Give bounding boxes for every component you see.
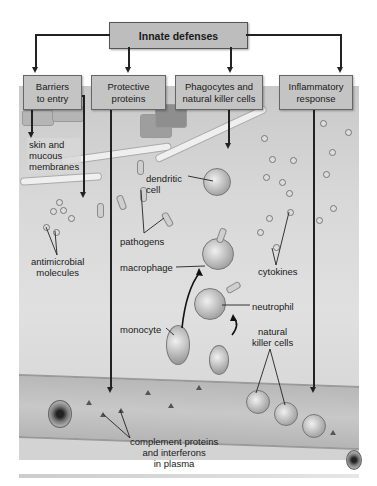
antimicrobial-molecule — [60, 207, 67, 214]
label-line: killer cells — [252, 337, 293, 348]
cytokine — [323, 171, 330, 178]
pathogen — [97, 203, 104, 218]
pathogen — [137, 160, 144, 175]
category-protective-proteins: Protectiveproteins — [91, 75, 166, 110]
complement-protein-marker — [168, 403, 174, 408]
label-line: and interferons — [142, 447, 205, 458]
label-line: molecules — [36, 267, 79, 278]
bottom-strip — [19, 474, 359, 478]
label-skin-mucous: skin and mucous membranes — [27, 138, 81, 173]
label-line: complement proteins — [130, 436, 218, 447]
label-monocyte: monocyte — [120, 324, 161, 335]
label-antimicrobial: antimicrobial molecules — [31, 256, 84, 278]
cytokine — [263, 174, 270, 181]
cytokine — [287, 209, 294, 216]
category-label-line2: natural killer cells — [183, 93, 256, 104]
complement-protein-marker — [86, 400, 92, 405]
category-inflammatory: Inflammatoryresponse — [279, 75, 353, 110]
complement-protein-marker — [330, 430, 336, 435]
cytokine — [261, 135, 268, 142]
natural-killer-cell — [274, 402, 298, 426]
connector-line — [35, 34, 37, 67]
category-label-line1: Barriers — [36, 81, 69, 92]
monocyte — [166, 325, 190, 365]
natural-killer-cell — [246, 390, 270, 414]
cytokine — [329, 149, 336, 156]
connector-line — [313, 108, 315, 388]
connector-line — [228, 108, 230, 144]
arrow-icon — [32, 67, 38, 73]
antimicrobial-molecule — [68, 215, 75, 222]
connector-line — [128, 47, 130, 67]
arrow-icon — [225, 143, 231, 149]
category-barriers: Barriersto entry — [23, 75, 82, 110]
category-phagocytes: Phagocytes andnatural killer cells — [175, 75, 263, 110]
label-line: in plasma — [154, 458, 195, 469]
label-line: antimicrobial — [31, 256, 84, 267]
label-cytokines: cytokines — [258, 266, 298, 277]
connector-line — [230, 47, 232, 67]
cytokine — [266, 215, 273, 222]
label-line: skin and — [29, 139, 64, 150]
title-label: Innate defenses — [139, 30, 218, 42]
migrating-cell — [209, 345, 229, 375]
dendritic-cell — [203, 168, 231, 196]
label-line: mucous — [29, 150, 62, 161]
red-blood-cell — [346, 450, 362, 470]
label-complement-proteins: complement proteins and interferons in p… — [130, 436, 218, 469]
antimicrobial-molecule — [50, 208, 57, 215]
cytokine — [316, 217, 323, 224]
skin-cell — [22, 110, 54, 126]
connector-line — [246, 34, 341, 36]
label-neutrophil: neutrophil — [252, 301, 294, 312]
category-label-line1: Protective — [107, 81, 149, 92]
cytokine — [279, 179, 286, 186]
cytokine — [257, 229, 264, 236]
category-label-line2: proteins — [112, 93, 146, 104]
cytokine — [330, 205, 337, 212]
label-line: dendritic — [146, 173, 182, 184]
complement-protein-marker — [118, 408, 124, 413]
category-label-line1: Inflammatory — [289, 81, 344, 92]
cytokine — [345, 129, 352, 136]
category-label-line2: response — [296, 93, 335, 104]
connector-line — [83, 95, 85, 193]
arrow-icon — [107, 387, 113, 393]
label-line: cell — [146, 184, 160, 195]
arrow-icon — [310, 387, 316, 393]
complement-protein-marker — [196, 385, 202, 390]
label-macrophage: macrophage — [120, 262, 173, 273]
label-line: natural — [258, 326, 287, 337]
connector-line — [110, 108, 112, 388]
macrophage — [202, 238, 234, 270]
label-dendritic-cell: dendritic cell — [146, 173, 182, 195]
connector-line — [340, 34, 342, 67]
label-line: membranes — [29, 161, 79, 172]
natural-killer-cell — [302, 414, 326, 438]
category-label-line2: to entry — [37, 93, 69, 104]
category-label-line1: Phagocytes and — [185, 81, 253, 92]
arrow-icon — [125, 67, 131, 73]
arrow-icon — [227, 67, 233, 73]
title-box-innate-defenses: Innate defenses — [109, 22, 248, 49]
cytokine — [290, 157, 297, 164]
connector-line — [31, 108, 33, 133]
cytokine — [273, 244, 280, 251]
antimicrobial-molecule — [56, 199, 63, 206]
label-natural-killer-cells: natural killer cells — [252, 326, 293, 348]
connector-line — [35, 34, 110, 36]
arrow-icon — [80, 192, 86, 198]
complement-protein-marker — [145, 390, 151, 395]
cytokine — [269, 156, 276, 163]
cytokine — [320, 120, 327, 127]
complement-protein-marker — [100, 412, 106, 417]
antimicrobial-molecule — [53, 229, 60, 236]
antimicrobial-molecule — [43, 224, 50, 231]
label-pathogens: pathogens — [120, 236, 164, 247]
neutrophil — [194, 288, 226, 320]
cytokine — [286, 190, 293, 197]
arrow-icon — [337, 67, 343, 73]
red-blood-cell — [48, 400, 72, 428]
